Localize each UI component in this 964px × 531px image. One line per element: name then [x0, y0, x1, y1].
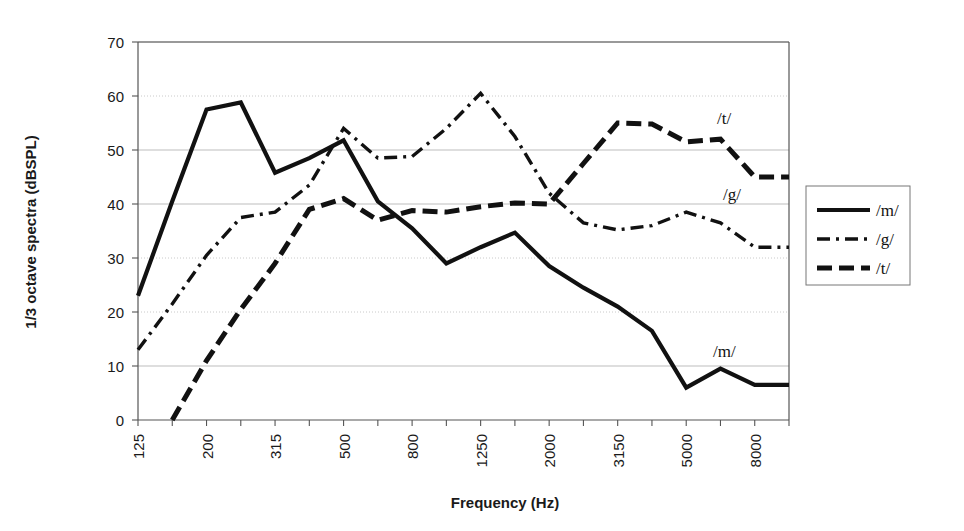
y-tick-label-10: 10	[107, 358, 124, 375]
x-tick-label-125: 125	[130, 434, 147, 459]
legend-label-t: /t/	[876, 259, 890, 278]
y-tick-label-60: 60	[107, 88, 124, 105]
x-tick-label-500: 500	[336, 434, 353, 459]
legend: /m//g//t/	[806, 186, 910, 285]
y-tick-label-20: 20	[107, 304, 124, 321]
y-axis-title: 1/3 octave spectra (dBSPL)	[22, 135, 39, 328]
y-tick-label-70: 70	[107, 34, 124, 51]
x-tick-label-2000: 2000	[541, 434, 558, 467]
y-tick-label-30: 30	[107, 250, 124, 267]
legend-label-g: /g/	[876, 230, 894, 249]
annotation-m: /m/	[713, 342, 736, 361]
x-tick-label-8000: 8000	[747, 434, 764, 467]
legend-label-m: /m/	[876, 201, 899, 220]
x-tick-label-1250: 1250	[473, 434, 490, 467]
x-tick-label-315: 315	[267, 434, 284, 459]
y-tick-label-40: 40	[107, 196, 124, 213]
x-tick-label-5000: 5000	[678, 434, 695, 467]
annotation-g: /g/	[723, 185, 741, 204]
x-tick-label-3150: 3150	[610, 434, 627, 467]
annotation-t: /t/	[717, 109, 731, 128]
x-tick-label-800: 800	[404, 434, 421, 459]
y-tick-label-50: 50	[107, 142, 124, 159]
x-axis-title: Frequency (Hz)	[451, 494, 559, 511]
chart-figure: 010203040506070 125200315500800125020003…	[0, 0, 964, 531]
x-tick-label-200: 200	[199, 434, 216, 459]
y-tick-label-0: 0	[116, 412, 124, 429]
